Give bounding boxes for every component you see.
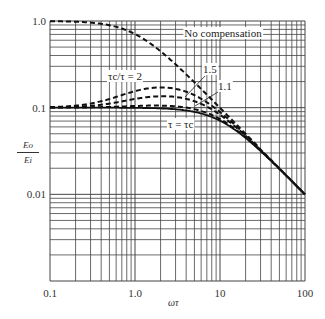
x-tick-label: 1.0 bbox=[128, 287, 142, 299]
x-tick-label: 10 bbox=[215, 287, 227, 299]
y-label-numerator: Eo bbox=[17, 140, 39, 150]
y-tick-label: 0.1 bbox=[32, 102, 46, 114]
curve-annotations: No compensationτc/τ = 21.51.1τ = τc bbox=[107, 27, 263, 130]
fraction-bar bbox=[17, 152, 39, 153]
x-axis-label: ωτ bbox=[168, 297, 179, 308]
chart-canvas: 0.11.0101001.00.10.01 No compensationτc/… bbox=[0, 0, 325, 319]
annotation-no-compensation: No compensation bbox=[184, 27, 262, 39]
axis-tick-labels: 0.11.0101001.00.10.01 bbox=[27, 15, 314, 299]
y-tick-label: 1.0 bbox=[32, 15, 46, 27]
x-tick-label: 0.1 bbox=[43, 287, 57, 299]
annotation-ratio-1-1: 1.1 bbox=[218, 80, 232, 92]
annotation-ratio-1-5: 1.5 bbox=[203, 63, 217, 75]
curve-1-5 bbox=[50, 96, 305, 194]
y-axis-label: Eo Ei bbox=[17, 140, 39, 165]
x-tick-label: 100 bbox=[297, 287, 314, 299]
annotation-tau-equals-tauc: τ = τc bbox=[168, 118, 194, 130]
y-label-denominator: Ei bbox=[17, 155, 39, 165]
grid-lines bbox=[50, 21, 305, 281]
curve--c-2 bbox=[50, 87, 305, 194]
y-tick-label: 0.01 bbox=[27, 188, 46, 200]
annotation-ratio-2: τc/τ = 2 bbox=[108, 70, 142, 82]
